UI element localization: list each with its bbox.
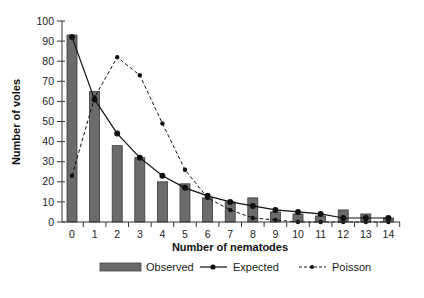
legend-poisson-label: Poisson	[332, 261, 371, 273]
poisson-marker	[183, 168, 187, 172]
y-tick-label: 60	[42, 95, 54, 107]
poisson-marker	[160, 121, 164, 125]
legend-observed-swatch	[100, 263, 141, 271]
y-tick-label: 90	[42, 35, 54, 47]
observed-bar	[203, 198, 213, 222]
x-tick-label: 13	[360, 228, 372, 240]
observed-bar	[112, 146, 122, 222]
poisson-marker	[205, 196, 209, 200]
poisson-marker	[70, 174, 74, 178]
expected-marker	[159, 173, 165, 179]
y-tick-label: 10	[42, 196, 54, 208]
legend-expected-marker-icon	[210, 264, 215, 269]
y-tick-label: 80	[42, 55, 54, 67]
observed-bar	[157, 182, 167, 222]
y-tick-label: 70	[42, 75, 54, 87]
legend-poisson-marker-icon	[310, 265, 314, 269]
x-tick-label: 9	[272, 228, 278, 240]
y-axis-title: Number of voles	[10, 79, 22, 165]
y-tick-label: 40	[42, 135, 54, 147]
x-tick-label: 2	[114, 228, 120, 240]
x-tick-label: 5	[182, 228, 188, 240]
x-tick-label: 12	[337, 228, 349, 240]
x-tick-label: 6	[205, 228, 211, 240]
x-tick-label: 7	[227, 228, 233, 240]
legend-poisson: Poisson	[299, 261, 371, 273]
poisson-marker	[92, 95, 96, 99]
legend-expected-label: Expected	[233, 261, 279, 273]
x-axis-title: Number of nematodes	[172, 241, 288, 253]
poisson-marker	[251, 216, 255, 220]
y-tick-label: 50	[42, 115, 54, 127]
y-axis-ticks: 0102030405060708090100	[36, 15, 65, 228]
observed-bar	[135, 158, 145, 222]
x-tick-label: 1	[92, 228, 98, 240]
x-tick-label: 10	[292, 228, 304, 240]
observed-bar	[67, 35, 77, 222]
expected-marker	[69, 34, 75, 40]
chart: 0102030405060708090100 01234567891011121…	[0, 0, 424, 298]
expected-marker	[272, 207, 278, 213]
x-tick-label: 8	[250, 228, 256, 240]
x-tick-label: 0	[69, 228, 75, 240]
y-tick-label: 100	[36, 15, 54, 27]
legend-observed-label: Observed	[146, 261, 194, 273]
x-tick-label: 14	[383, 228, 395, 240]
observed-bars	[67, 35, 393, 222]
expected-marker	[137, 155, 143, 161]
expected-marker	[250, 203, 256, 209]
expected-marker	[318, 211, 324, 217]
legend-expected: Expected	[200, 261, 279, 273]
poisson-marker	[228, 208, 232, 212]
expected-marker	[182, 185, 188, 191]
x-tick-label: 11	[315, 228, 326, 240]
x-axis-ticks: 01234567891011121314	[69, 222, 400, 240]
y-tick-label: 0	[48, 216, 54, 228]
legend-observed: Observed	[100, 261, 194, 273]
expected-marker	[114, 131, 120, 137]
y-tick-label: 30	[42, 155, 54, 167]
legend: Observed Expected Poisson	[100, 261, 371, 273]
expected-marker	[227, 199, 233, 205]
x-tick-label: 3	[137, 228, 143, 240]
poisson-marker	[138, 73, 142, 77]
y-tick-label: 20	[42, 175, 54, 187]
poisson-marker	[115, 55, 119, 59]
expected-marker	[295, 209, 301, 215]
x-tick-label: 4	[159, 228, 165, 240]
